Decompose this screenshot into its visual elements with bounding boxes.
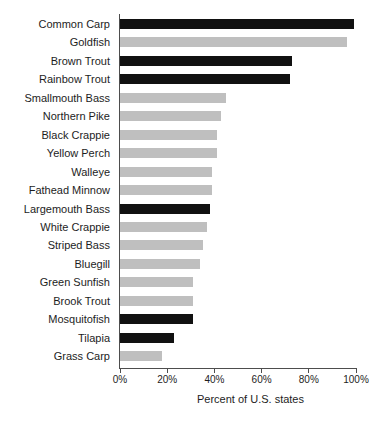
- bar-row: Yellow Perch: [0, 144, 385, 162]
- bar: [120, 259, 200, 269]
- x-axis-tick: [308, 369, 309, 373]
- bar-row: Common Carp: [0, 15, 385, 33]
- bar-row: White Crappie: [0, 218, 385, 236]
- x-axis-tick: [167, 369, 168, 373]
- bar: [120, 204, 210, 214]
- category-label: Yellow Perch: [0, 144, 110, 162]
- category-label: Bluegill: [0, 255, 110, 273]
- x-axis-tick-label: 100%: [334, 374, 378, 385]
- bar: [120, 74, 290, 84]
- bar-row: Rainbow Trout: [0, 70, 385, 88]
- bar-row: Striped Bass: [0, 236, 385, 254]
- bar-row: Northern Pike: [0, 107, 385, 125]
- bar-row: Smallmouth Bass: [0, 89, 385, 107]
- bar-row: Largemouth Bass: [0, 200, 385, 218]
- x-axis-title-text: Percent of U.S. states: [197, 393, 304, 405]
- bar-row: Grass Carp: [0, 347, 385, 365]
- category-label: Fathead Minnow: [0, 181, 110, 199]
- x-axis-tick: [120, 369, 121, 373]
- x-axis-tick-label: 60%: [240, 374, 284, 385]
- category-label: Rainbow Trout: [0, 70, 110, 88]
- category-label: White Crappie: [0, 218, 110, 236]
- category-label: Striped Bass: [0, 236, 110, 254]
- bar: [120, 93, 226, 103]
- x-axis-tick-label: 20%: [145, 374, 189, 385]
- category-label: Largemouth Bass: [0, 200, 110, 218]
- x-axis-tick: [214, 369, 215, 373]
- category-label: Smallmouth Bass: [0, 89, 110, 107]
- bar-row: Tilapia: [0, 329, 385, 347]
- bar: [120, 185, 212, 195]
- category-label: Mosquitofish: [0, 310, 110, 328]
- bar-row: Fathead Minnow: [0, 181, 385, 199]
- bar: [120, 56, 292, 66]
- bar-row: Green Sunfish: [0, 273, 385, 291]
- bar-row: Brook Trout: [0, 292, 385, 310]
- x-axis-tick-label: 0%: [98, 374, 142, 385]
- bar: [120, 37, 347, 47]
- category-label: Northern Pike: [0, 107, 110, 125]
- bar-row: Brown Trout: [0, 52, 385, 70]
- y-axis-line: [119, 14, 120, 368]
- bar: [120, 111, 221, 121]
- bar-chart-figure: Common CarpGoldfishBrown TroutRainbow Tr…: [0, 0, 385, 422]
- category-label: Black Crappie: [0, 126, 110, 144]
- bar: [120, 148, 217, 158]
- category-label: Grass Carp: [0, 347, 110, 365]
- category-label: Common Carp: [0, 15, 110, 33]
- x-axis-title: Percent of U.S. states: [0, 393, 385, 405]
- bar: [120, 240, 203, 250]
- category-label: Brown Trout: [0, 52, 110, 70]
- category-label: Brook Trout: [0, 292, 110, 310]
- x-axis-tick: [261, 369, 262, 373]
- bar: [120, 167, 212, 177]
- bar: [120, 130, 217, 140]
- category-label: Green Sunfish: [0, 273, 110, 291]
- bar-row: Mosquitofish: [0, 310, 385, 328]
- x-axis-tick-label: 40%: [192, 374, 236, 385]
- bar-row: Black Crappie: [0, 126, 385, 144]
- bar: [120, 296, 193, 306]
- bar: [120, 222, 207, 232]
- category-label: Tilapia: [0, 329, 110, 347]
- x-axis-tick: [356, 369, 357, 373]
- category-label: Walleye: [0, 163, 110, 181]
- category-label: Goldfish: [0, 33, 110, 51]
- x-axis-line: [119, 368, 357, 369]
- bar-row: Walleye: [0, 163, 385, 181]
- x-axis-tick-label: 80%: [287, 374, 331, 385]
- bar: [120, 314, 193, 324]
- plot-area: Common CarpGoldfishBrown TroutRainbow Tr…: [0, 0, 385, 422]
- bar: [120, 19, 354, 29]
- bar-row: Goldfish: [0, 33, 385, 51]
- bar-row: Bluegill: [0, 255, 385, 273]
- bar: [120, 333, 174, 343]
- bar: [120, 351, 162, 361]
- bar: [120, 277, 193, 287]
